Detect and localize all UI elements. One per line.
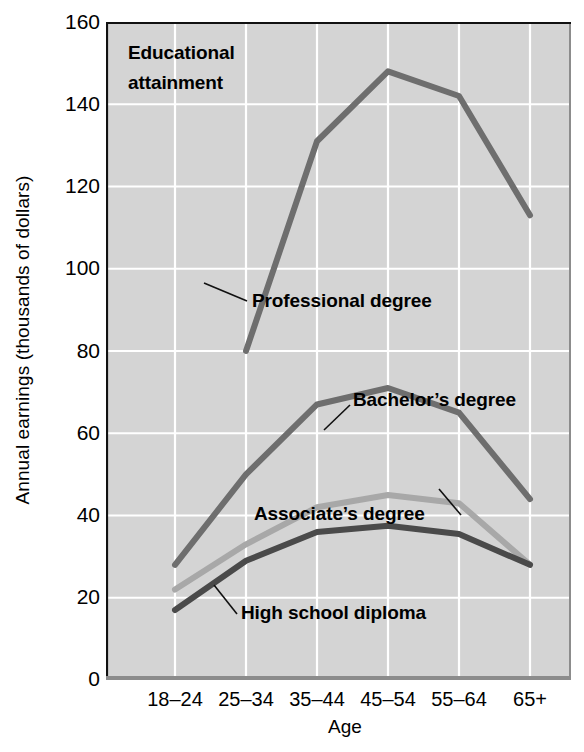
plot-area: Educational attainment Professional degr…: [106, 22, 571, 680]
chart-figure: Annual earnings (thousands of dollars) 1…: [0, 0, 584, 752]
x-axis-tick-labels: 18–24 25–34 35–44 45–54 55–64 65+: [0, 688, 584, 718]
y-tick-120: 120: [34, 175, 100, 196]
label-bachelors-degree: Bachelor’s degree: [353, 389, 516, 411]
x-tick-45-54: 45–54: [360, 688, 416, 711]
x-tick-55-64: 55–64: [431, 688, 487, 711]
x-tick-35-44: 35–44: [289, 688, 345, 711]
y-tick-80: 80: [34, 340, 100, 361]
y-tick-100: 100: [34, 257, 100, 278]
label-professional-degree: Professional degree: [252, 290, 432, 312]
x-tick-18-24: 18–24: [147, 688, 203, 711]
chart-title-line2: attainment: [128, 72, 223, 94]
y-tick-160: 160: [34, 11, 100, 32]
chart-canvas: [106, 22, 571, 680]
y-tick-20: 20: [34, 586, 100, 607]
y-tick-0: 0: [34, 668, 100, 689]
x-axis-title: Age: [110, 716, 580, 738]
y-tick-60: 60: [34, 422, 100, 443]
x-tick-65plus: 65+: [513, 688, 547, 711]
y-axis-tick-labels: 160 140 120 100 80 60 40 20 0: [34, 0, 100, 752]
y-tick-40: 40: [34, 504, 100, 525]
label-high-school-diploma: High school diploma: [241, 602, 426, 624]
y-tick-140: 140: [34, 93, 100, 114]
label-associates-degree: Associate’s degree: [254, 503, 425, 525]
chart-title-line1: Educational: [128, 42, 235, 64]
x-tick-25-34: 25–34: [218, 688, 274, 711]
